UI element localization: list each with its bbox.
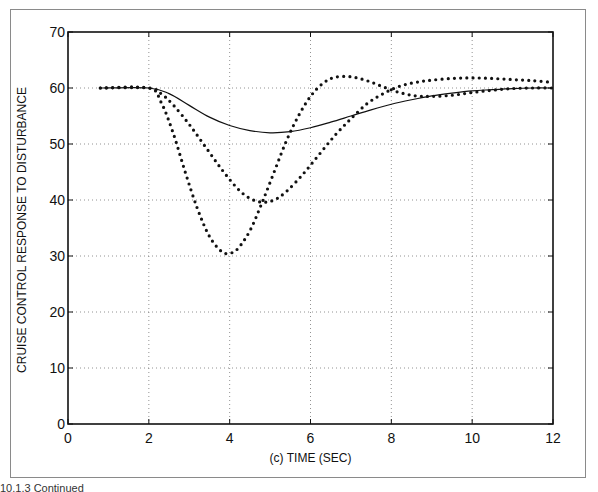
y-axis-label: CRUISE CONTROL RESPONSE TO DISTURBANCE [15, 87, 29, 373]
x-axis-label: (c) TIME (SEC) [270, 451, 352, 465]
y-tick-label: 10 [49, 360, 65, 376]
x-tick-label: 2 [145, 430, 153, 446]
x-tick-label: 12 [545, 430, 561, 446]
x-axis-tick-labels: 024681012 [64, 430, 561, 446]
series-line-3 [100, 78, 553, 202]
y-tick-label: 60 [49, 80, 65, 96]
x-tick-label: 10 [464, 430, 480, 446]
y-tick-label: 40 [49, 192, 65, 208]
y-tick-label: 70 [49, 24, 65, 40]
series-line-1 [100, 88, 553, 133]
figure-caption: 10.1.3 Continued [0, 482, 84, 492]
x-tick-label: 4 [226, 430, 234, 446]
x-tick-label: 8 [387, 430, 395, 446]
x-tick-label: 0 [64, 430, 72, 446]
chart: 024681012 010203040506070 (c) TIME (SEC)… [0, 0, 598, 492]
data-series [100, 76, 553, 253]
series-line-2 [100, 76, 553, 253]
y-tick-label: 0 [57, 416, 65, 432]
y-tick-label: 30 [49, 248, 65, 264]
y-tick-label: 50 [49, 136, 65, 152]
y-tick-label: 20 [49, 304, 65, 320]
y-axis-tick-labels: 010203040506070 [49, 24, 65, 432]
x-tick-label: 6 [307, 430, 315, 446]
